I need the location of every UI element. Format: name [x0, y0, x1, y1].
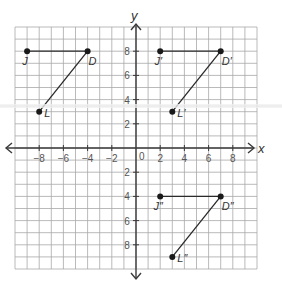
y-tick-label: 4	[124, 191, 130, 202]
x-axis-label: x	[257, 141, 265, 156]
point-marker	[157, 193, 163, 199]
point-marker	[24, 48, 30, 54]
origin-label: 0	[139, 151, 145, 162]
y-axis-label: y	[130, 8, 139, 23]
point-marker	[218, 48, 224, 54]
x-tick-label: −4	[82, 153, 94, 164]
scan-artifact	[0, 104, 282, 108]
x-tick-label: 2	[157, 153, 163, 164]
axes	[6, 24, 254, 279]
point-label: D″	[222, 200, 235, 212]
point-label: J	[21, 55, 28, 67]
point-marker	[169, 254, 175, 260]
x-tick-label: 8	[230, 153, 236, 164]
point-label: D′	[222, 55, 233, 67]
x-tick-label: −8	[33, 153, 45, 164]
y-tick-label: 2	[124, 119, 130, 130]
x-tick-label: −2	[106, 153, 118, 164]
x-tick-label: 6	[206, 153, 212, 164]
coordinate-plane: −8−6−4−2246886422468 JDLJ′D′L′J″D″L″ x y…	[0, 0, 282, 287]
y-tick-label: 8	[124, 46, 130, 57]
y-tick-label: 8	[124, 240, 130, 251]
point-label: L	[44, 107, 50, 119]
y-tick-label: 2	[124, 167, 130, 178]
point-label: L″	[177, 252, 188, 264]
point-marker	[36, 109, 42, 115]
point-marker	[218, 193, 224, 199]
point-label: J″	[152, 200, 164, 212]
point-label: L′	[177, 107, 186, 119]
x-tick-label: −6	[58, 153, 70, 164]
x-tick-label: 4	[182, 153, 188, 164]
point-label: J′	[153, 55, 163, 67]
y-tick-label: 6	[124, 70, 130, 81]
point-marker	[169, 109, 175, 115]
point-marker	[157, 48, 163, 54]
y-tick-label: 6	[124, 216, 130, 227]
point-marker	[85, 48, 91, 54]
point-label: D	[89, 55, 97, 67]
